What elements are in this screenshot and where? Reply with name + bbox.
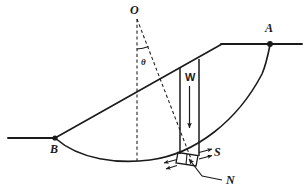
label-shear-s: S: [214, 146, 221, 158]
inclined-radius-dashed-line: [137, 19, 192, 160]
slip-surface-curve: [55, 45, 270, 161]
normal-force-leader-line: [202, 176, 222, 180]
marked-points: [52, 41, 273, 140]
shear-arrow-right-upper: [199, 149, 212, 153]
shear-arrow-left-upper: [164, 160, 177, 164]
label-point-o: O: [130, 4, 139, 16]
label-weight-w: W: [185, 72, 195, 83]
slice-base-divider: [186, 154, 187, 165]
figure-canvas: [0, 0, 308, 192]
shear-arrow-right-lower: [199, 156, 212, 160]
failure-arc: [55, 45, 270, 161]
slope-face-line: [55, 44, 222, 138]
radius-lines-group: [137, 19, 192, 161]
slope-stability-figure: O A B θ W S N: [0, 0, 308, 192]
label-point-a: A: [265, 22, 273, 34]
point-b-dot: [52, 135, 57, 140]
point-a-dot: [267, 41, 273, 47]
label-angle-theta: θ: [141, 58, 146, 67]
label-point-b: B: [50, 143, 58, 155]
ground-surface-profile: [8, 44, 302, 138]
angle-arc: [137, 47, 149, 50]
normal-force-arrow: [189, 159, 202, 176]
label-normal-n: N: [226, 174, 235, 186]
shear-arrow-left-lower: [166, 166, 177, 170]
